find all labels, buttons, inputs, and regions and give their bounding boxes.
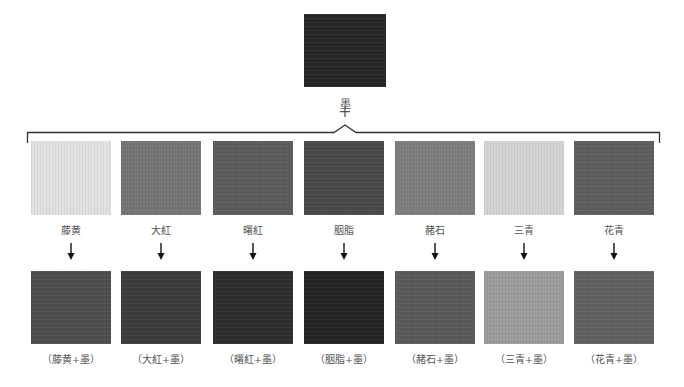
mixed-swatch [31,271,111,344]
mixed-swatch [304,271,384,344]
pigment-label: 花青 [564,222,664,237]
down-arrow-icon [339,243,349,261]
mixed-label: （三青+墨） [474,351,574,366]
mixed-label: （曙紅+墨） [203,351,303,366]
mixed-swatch [395,271,475,344]
pigment-swatch [304,141,384,215]
down-arrow-icon [519,243,529,261]
mixed-swatch [574,271,654,344]
down-arrow-icon [248,243,258,261]
pigment-swatch [574,141,654,215]
mixed-label: （花青+墨） [564,351,664,366]
mixed-label: （藤黄+墨） [21,351,121,366]
pigment-label: 藤黄 [21,222,121,237]
down-arrow-icon [66,243,76,261]
mixed-swatch [213,271,293,344]
down-arrow-icon [156,243,166,261]
down-arrow-icon [430,243,440,261]
pigment-label: 三青 [474,222,574,237]
pigment-label: 曙紅 [203,222,303,237]
pigment-swatch [121,141,201,215]
pigment-label: 大紅 [111,222,211,237]
pigment-swatch [213,141,293,215]
mixed-swatch [121,271,201,344]
bracket-divider [0,0,684,160]
mixed-label: （胭脂+墨） [294,351,394,366]
down-arrow-icon [609,243,619,261]
mixed-label: （大紅+墨） [111,351,211,366]
pigment-label: 胭脂 [294,222,394,237]
mixed-label: （赭石+墨） [385,351,485,366]
mixed-swatch [484,271,564,344]
pigment-swatch [395,141,475,215]
pigment-swatch [484,141,564,215]
pigment-label: 赭石 [385,222,485,237]
pigment-swatch [31,141,111,215]
